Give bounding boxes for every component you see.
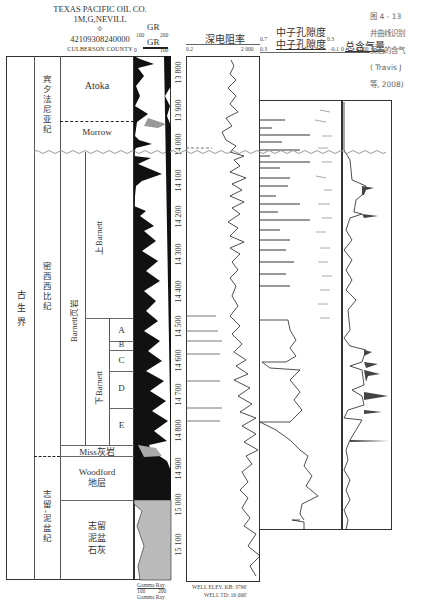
caption-line-3: 页岩的含气	[370, 42, 442, 59]
unit-e: E	[109, 420, 134, 430]
formation-atoka: Atoka	[60, 80, 134, 91]
unit-c-top	[109, 350, 134, 351]
gr-scale-top-min: 100	[136, 32, 144, 38]
unit-d: D	[109, 383, 134, 393]
lower-barnett-top	[85, 318, 134, 319]
caption-line-2: 井曲线识别	[370, 25, 442, 42]
depth-14400: 14 400	[174, 272, 183, 312]
pennsylvanian-boundary	[60, 121, 134, 122]
well-elevation: WELL ELEV. KB: 3796'	[192, 584, 247, 590]
formation-morrow: Morrow	[60, 127, 134, 137]
formation-upper-barnett: 上Barnett	[92, 221, 104, 255]
resistivity-scale-max: 2 000	[241, 46, 253, 52]
unit-d-top	[109, 371, 134, 372]
unit-c: C	[109, 355, 134, 365]
depth-14900: 14 900	[174, 449, 183, 489]
depth-15100: 15 100	[174, 525, 183, 565]
neutron-scale-top-max: 0.3	[327, 36, 334, 42]
unit-b: B	[109, 340, 134, 349]
well-total-depth: WELL TD: 16 000'	[204, 592, 247, 598]
gr-legend-bottom: Gamma Ray	[137, 594, 165, 600]
silurian-top	[60, 500, 134, 501]
resistivity-scale-line	[186, 44, 260, 45]
depth-14100: 14 100	[174, 161, 183, 201]
unconformity-line-logs	[170, 149, 390, 155]
unit-e-top	[109, 408, 134, 409]
system-mississippian: 密西西比纪	[40, 262, 52, 312]
gr-title-top: GR	[147, 22, 160, 32]
barnett-divider	[85, 152, 86, 445]
depth-14200: 14 200	[174, 197, 183, 237]
erathem-label: 古 生 界	[15, 290, 28, 327]
formation-miss-limestone: Miss灰岩	[60, 445, 134, 458]
depth-14800: 14 800	[174, 411, 183, 451]
gas-scale-min: 0	[341, 46, 344, 52]
company-name: TEXAS PACIFIC OIL CO.	[20, 4, 180, 14]
devonian-boundary	[34, 456, 60, 457]
caption-line-5: 等, 2008)	[370, 76, 442, 93]
gr-scale-top-max: 200	[160, 32, 168, 38]
gr-scale-bottom-min: 0	[134, 47, 137, 53]
depth-15000: 15 000	[174, 485, 183, 525]
erathem-divider	[34, 56, 35, 580]
neutron-scale-top-min: 0.7	[260, 36, 267, 42]
neutron-curve	[260, 100, 342, 530]
gr-title-bottom: GR	[147, 37, 160, 47]
depth-14000: 14 000	[174, 125, 183, 165]
formation-barnett-shale: Barnett页岩	[67, 299, 79, 342]
gr-curve	[134, 56, 171, 580]
depth-14300: 14 300	[174, 235, 183, 275]
figure-caption: 图 4 - 13 井曲线识别 页岩的含气 ( Travis J 等, 2008)	[370, 8, 442, 93]
caption-line-4: ( Travis J	[370, 59, 442, 76]
system-pennsylvanian: 宾夕法尼亚纪	[40, 75, 52, 135]
gr-scale-bottom-max: 100	[160, 47, 168, 53]
depth-14700: 14 700	[174, 375, 183, 415]
formation-lower-barnett: 下Barnett	[92, 371, 104, 405]
resistivity-scale-min: 0.2	[186, 46, 193, 52]
resistivity-curve	[186, 56, 260, 582]
formation-woodford: Woodford 地层	[60, 467, 134, 489]
unit-a: A	[109, 325, 134, 335]
system-silurian-devonian: 志留-泥盆纪	[40, 490, 52, 544]
formation-silurian-devonian-limestone: 志留 泥盆 石灰	[60, 520, 134, 556]
depth-13800: 13 800	[174, 53, 183, 93]
caption-line-1: 图 4 - 13	[370, 8, 442, 25]
neutron-title-bottom: 中子孔隙度	[276, 36, 326, 51]
gas-content-curve	[342, 100, 392, 530]
gas-scale-max: 4 000	[356, 46, 368, 52]
gas-scale-line	[260, 52, 370, 53]
